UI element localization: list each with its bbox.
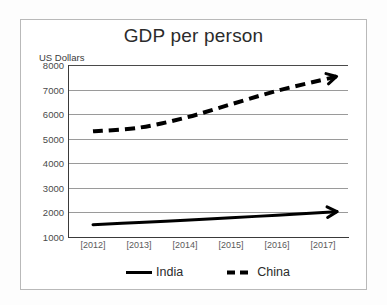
chart-title: GDP per person [0, 25, 387, 47]
legend-item-india[interactable]: India [126, 265, 183, 279]
y-axis-tick-label: 2000 [43, 207, 64, 218]
y-axis-tick-label: 5000 [43, 133, 64, 144]
y-axis-tick-label: 3000 [43, 182, 64, 193]
y-axis-line [68, 65, 69, 238]
y-axis-tick-label: 4000 [43, 158, 64, 169]
x-axis-line [68, 237, 349, 238]
x-axis-tick-label: [2014] [172, 240, 197, 250]
legend-label: India [156, 265, 183, 279]
x-axis-tick-label: [2013] [126, 240, 151, 250]
y-axis-tick-label: 6000 [43, 109, 64, 120]
y-axis-tick-label: 7000 [43, 84, 64, 95]
series-china [93, 74, 337, 132]
x-axis-ticks: [2012][2013][2014][2015][2016][2017] [68, 240, 348, 256]
x-axis-tick-label: [2017] [310, 240, 335, 250]
series-india [93, 207, 337, 225]
chart-canvas: GDP per person US Dollars 80007000600050… [0, 0, 387, 305]
chart-legend: IndiaChina [68, 262, 348, 282]
x-axis-tick-label: [2016] [264, 240, 289, 250]
y-axis-tick-label: 1000 [43, 232, 64, 243]
y-axis-tick-label: 8000 [43, 60, 64, 71]
x-axis-tick-label: [2012] [80, 240, 105, 250]
series-line [93, 212, 337, 225]
series-line [93, 76, 337, 131]
legend-label: China [257, 265, 290, 279]
series-layer [68, 65, 348, 237]
y-axis-ticks: 80007000600050004000300020001000 [28, 65, 64, 237]
x-axis-tick-label: [2015] [218, 240, 243, 250]
legend-item-china[interactable]: China [227, 265, 290, 279]
legend-line-icon [126, 267, 152, 278]
plot-area [68, 65, 348, 237]
legend-line-icon [227, 267, 253, 278]
